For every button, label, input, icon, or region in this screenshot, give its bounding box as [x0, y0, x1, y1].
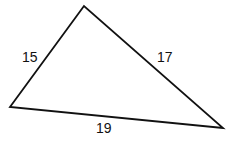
- side-label-bottom: 19: [96, 120, 112, 136]
- triangle-shape: [10, 6, 223, 128]
- triangle-diagram: 15 17 19: [0, 0, 236, 144]
- side-label-left: 15: [22, 49, 38, 65]
- side-label-right: 17: [157, 49, 173, 65]
